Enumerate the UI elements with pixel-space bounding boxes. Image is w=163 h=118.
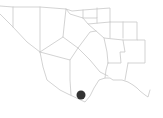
east-counties	[104, 38, 128, 80]
ne-counties	[66, 8, 145, 63]
county-boundaries	[0, 0, 163, 118]
location-marker-dot[interactable]	[77, 91, 86, 100]
west-counties	[13, 7, 108, 95]
region-outline	[0, 14, 150, 102]
county-map	[0, 0, 163, 118]
region-outline-top	[0, 6, 110, 22]
